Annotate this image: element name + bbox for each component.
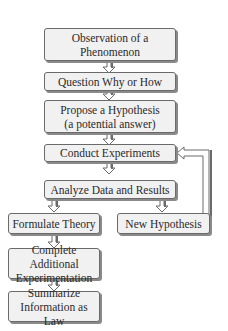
node-question: Question Why or How bbox=[44, 72, 176, 91]
node-observation: Observation of aPhenomenon bbox=[44, 28, 176, 61]
arrow-analyze-to-new-hypothesis-icon bbox=[156, 199, 168, 212]
node-experiments: Conduct Experiments bbox=[44, 144, 176, 162]
feedback-loop-arrow-icon bbox=[177, 147, 212, 222]
node-law: SummarizeInformation as Law bbox=[8, 291, 100, 322]
node-new-hypothesis: New Hypothesis bbox=[117, 213, 210, 234]
node-analyze: Analyze Data and Results bbox=[44, 180, 176, 199]
node-theory: Formulate Theory bbox=[8, 213, 100, 234]
node-hypothesis: Propose a Hypothesis(a potential answer) bbox=[44, 100, 176, 133]
arrow-experiments-to-analyze-icon bbox=[103, 161, 115, 174]
arrow-analyze-to-theory-icon bbox=[48, 199, 60, 212]
node-additional: Complete AdditionalExperimentation bbox=[8, 248, 100, 279]
